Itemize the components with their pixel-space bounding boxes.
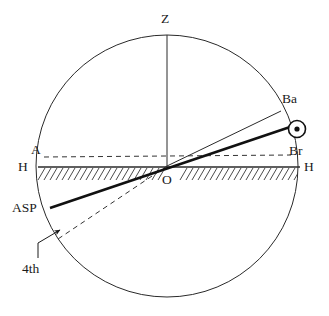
label-asp: ASP [12,201,37,215]
label-brightness: Br [289,144,303,158]
label-fourth: 4th [22,262,39,276]
label-horizon-left: H [18,160,28,174]
label-ascendant: A [31,143,41,157]
fourth-house-dashed-line [58,166,167,239]
diagram-canvas [0,0,329,316]
ba-ray-thin-line [167,111,281,166]
label-horizon-right: H [304,160,314,174]
label-origin: O [162,173,172,187]
sun-circled-dot-symbol [289,121,306,138]
horizon-diagram-figure: Z O H H A Ba Br ASP 4th [0,0,329,316]
label-birth: Ba [282,92,297,106]
fourth-label-leader-arrow [38,230,60,258]
label-zenith: Z [161,12,169,26]
